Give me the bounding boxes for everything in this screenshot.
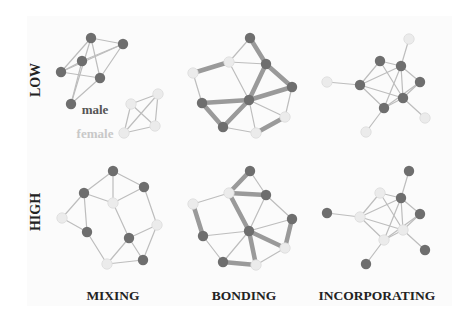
column-label-mixing: MIXING	[86, 288, 140, 303]
male-node	[415, 77, 425, 87]
legend-female-label: female	[77, 126, 114, 141]
male-node	[218, 122, 228, 132]
male-node	[198, 231, 208, 241]
male-node	[118, 39, 128, 49]
male-node	[77, 56, 87, 66]
row-label-high: HIGH	[28, 193, 43, 231]
female-node	[224, 188, 234, 198]
female-node	[119, 128, 129, 138]
female-node	[398, 225, 408, 235]
male-node	[322, 208, 332, 218]
female-node	[404, 34, 414, 44]
female-node	[420, 113, 430, 123]
male-node	[124, 233, 134, 243]
male-node	[245, 33, 255, 43]
male-node	[244, 95, 254, 105]
male-node	[355, 80, 365, 90]
female-node	[361, 127, 371, 137]
female-node	[102, 259, 112, 269]
female-node	[152, 220, 162, 230]
female-node	[224, 57, 234, 67]
male-node	[82, 227, 92, 237]
column-label-incorporating: INCORPORATING	[319, 288, 436, 303]
strong-tie-edge	[202, 100, 249, 103]
female-node	[355, 212, 365, 222]
female-node	[57, 213, 67, 223]
male-node	[379, 103, 389, 113]
male-node	[261, 190, 271, 200]
female-node	[280, 112, 290, 122]
female-node	[126, 99, 136, 109]
female-node	[322, 77, 332, 87]
male-node	[79, 188, 89, 198]
female-node	[150, 121, 160, 131]
female-node	[280, 243, 290, 253]
female-node	[251, 260, 261, 270]
male-node	[244, 226, 254, 236]
male-node	[218, 257, 228, 267]
male-node	[396, 193, 406, 203]
male-node	[56, 67, 66, 77]
male-node	[361, 259, 371, 269]
female-node	[153, 89, 163, 99]
male-node	[86, 33, 96, 43]
legend-male-label: male	[82, 102, 109, 117]
female-node	[379, 235, 389, 245]
female-node	[188, 68, 198, 78]
male-node	[108, 166, 118, 176]
network-diagram: LOW HIGH male female MIXING BONDING INCO…	[0, 0, 473, 324]
row-label-low: LOW	[28, 63, 43, 97]
male-node	[245, 166, 255, 176]
male-node	[415, 209, 425, 219]
male-node	[197, 98, 207, 108]
male-node	[261, 59, 271, 69]
female-node	[188, 199, 198, 209]
male-node	[396, 61, 406, 71]
male-node	[420, 245, 430, 255]
male-node	[287, 82, 297, 92]
male-node	[139, 182, 149, 192]
male-node	[375, 56, 385, 66]
female-node	[375, 188, 385, 198]
column-label-bonding: BONDING	[212, 288, 277, 303]
male-node	[287, 214, 297, 224]
male-node	[398, 93, 408, 103]
male-node	[66, 99, 76, 109]
female-node	[251, 128, 261, 138]
male-node	[95, 73, 105, 83]
male-node	[138, 255, 148, 265]
male-node	[404, 166, 414, 176]
female-node	[108, 198, 118, 208]
